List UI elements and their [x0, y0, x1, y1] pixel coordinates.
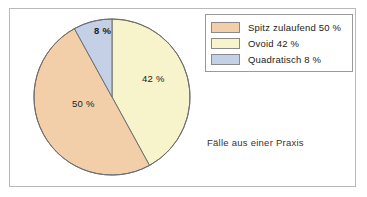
chart-legend: Spitz zulaufend 50 % Ovoid 42 % Quadrati…: [205, 14, 353, 72]
pie-label-ovoid: 42 %: [142, 73, 165, 84]
legend-swatch-ovoid: [211, 38, 240, 49]
legend-item-quadratisch[interactable]: Quadratisch 8 %: [211, 52, 346, 66]
legend-item-spitz-zulaufend[interactable]: Spitz zulaufend 50 %: [211, 20, 346, 34]
pie-label-quadratisch: 8 %: [94, 25, 111, 36]
legend-swatch-quadratisch: [211, 54, 240, 65]
legend-item-ovoid[interactable]: Ovoid 42 %: [211, 36, 346, 50]
legend-swatch-spitz-zulaufend: [211, 22, 240, 33]
pie-label-spitz-zulaufend: 50 %: [72, 98, 95, 109]
legend-label-quadratisch: Quadratisch 8 %: [248, 54, 321, 65]
legend-label-ovoid: Ovoid 42 %: [248, 38, 299, 49]
chart-caption: Fälle aus einer Praxis: [207, 137, 304, 148]
legend-label-spitz-zulaufend: Spitz zulaufend 50 %: [248, 22, 341, 33]
figure-container: 50 % 42 % 8 % Fälle aus einer Praxis Spi…: [0, 0, 367, 197]
